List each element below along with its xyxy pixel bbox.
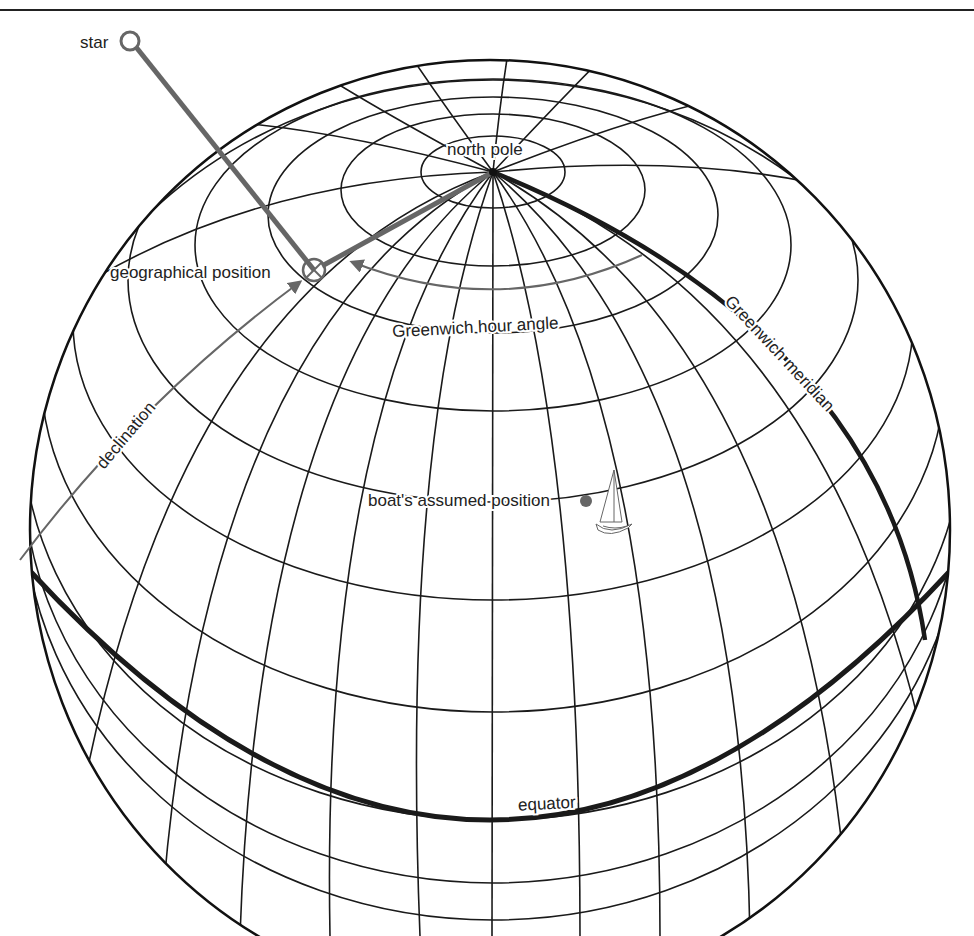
greenwich-hour-angle-label: Greenwich hour angle: [392, 313, 559, 341]
meridians: [60, 40, 950, 936]
geographical-position-label: geographical position: [110, 263, 271, 282]
equator-label: equator: [517, 793, 576, 815]
star-ray: [132, 42, 314, 270]
north-pole-label: north pole: [447, 140, 523, 159]
boats-assumed-position-label: boat's assumed position: [368, 491, 550, 510]
equator-line: [20, 560, 960, 820]
sailboat-icon: [596, 470, 632, 534]
geographical-position-marker-icon: [303, 259, 325, 281]
greenwich-hour-angle-arrow: [352, 255, 642, 289]
north-pole-point: [489, 168, 497, 176]
declination-arrow: [20, 282, 300, 560]
celestial-navigation-globe-diagram: g p: [0, 0, 974, 936]
boat-position-dot-icon: [580, 495, 592, 507]
star-pointer: star: [80, 32, 314, 270]
globe: [20, 32, 963, 936]
star-marker-icon: [121, 32, 139, 50]
declination-label: declination: [93, 398, 160, 472]
star-label: star: [80, 33, 109, 52]
